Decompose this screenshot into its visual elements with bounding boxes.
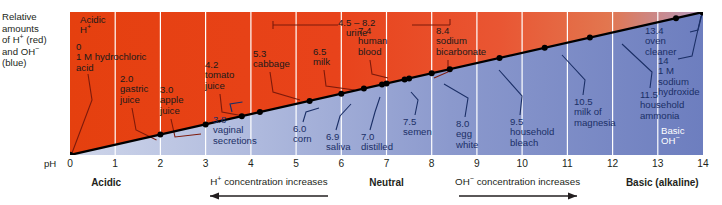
zone-label-neutral: Neutral <box>369 177 403 188</box>
label-saliva: 6.9saliva <box>326 132 351 153</box>
axis-tick-7: 7 <box>384 158 390 169</box>
axis-tick-0: 0 <box>67 158 73 169</box>
label-vaginal-secretions-line-3: secretions <box>213 136 257 146</box>
axis-tick-8: 8 <box>429 158 435 169</box>
y-axis-caption: Relative amounts of H+ (red) and OH− (bl… <box>2 11 66 69</box>
axis-tick-10: 10 <box>516 158 527 169</box>
y-axis-caption-line-2: amounts <box>2 23 66 35</box>
label-milk-line-2: milk <box>313 57 330 67</box>
axis-tick-9: 9 <box>474 158 480 169</box>
label-hydrochloric-acid: 01 M hydrochloricacid <box>76 42 146 73</box>
label-distilled-water: 7.0distilledwater <box>361 132 393 155</box>
axis-tick-5: 5 <box>293 158 299 169</box>
label-hydrochloric-acid-line-3: acid <box>76 63 146 73</box>
y-axis-caption-line-4: and OH− <box>2 46 66 58</box>
label-apple-juice-line-3: juice <box>160 106 183 116</box>
axis-tick-4: 4 <box>248 158 254 169</box>
label-sodium-bicarbonate: 8.4sodiumbicarbonate <box>436 26 486 57</box>
basic-region-label: Basic OH− <box>661 126 684 147</box>
label-oven-cleaner: 13.4ovencleaner <box>645 26 676 57</box>
flow-label-oh-concentration: OH− concentration increases <box>455 176 580 187</box>
label-milk-of-magnesia-line-3: magnesia <box>574 118 616 128</box>
zone-label-basic-alkaline: Basic (alkaline) <box>626 177 699 188</box>
ph-scale-diagram: Relative amounts of H+ (red) and OH− (bl… <box>0 0 722 205</box>
label-corn-line-2: corn <box>293 134 312 144</box>
axis-tick-13: 13 <box>652 158 663 169</box>
flow-label-h-concentration: H+ concentration increases <box>210 176 327 187</box>
label-milk: 6.5milk <box>313 47 330 68</box>
label-corn: 6.0corn <box>293 124 312 145</box>
label-saliva-line-2: saliva <box>326 142 351 152</box>
label-cabbage: 5.3cabbage <box>253 49 290 70</box>
flow-arrow-oh-concentration <box>459 190 577 202</box>
label-cabbage-line-2: cabbage <box>253 59 290 69</box>
ph-axis-title: pH <box>44 158 56 169</box>
label-semen-line-2: semen <box>403 127 432 137</box>
axis-tick-2: 2 <box>158 158 164 169</box>
label-vaginal-secretions: 3.8vaginalsecretions <box>213 115 257 155</box>
flow-arrow-h-concentration <box>210 190 328 202</box>
label-household-ammonia-line-3: ammonia <box>640 111 684 121</box>
ph-axis: pH 01234567891011121314 AcidicNeutralBas… <box>0 155 722 205</box>
y-axis-caption-line-5: (blue) <box>2 57 66 69</box>
label-gastric-juice: 2.0gastricjuice <box>120 74 148 105</box>
plot-area: Acidic H+ Basic OH− 4.5 – 8.2 urine 01 M… <box>70 12 703 155</box>
label-vaginal-secretions-line-4 <box>213 146 257 155</box>
axis-tick-14: 14 <box>697 158 708 169</box>
axis-tick-6: 6 <box>338 158 344 169</box>
label-human-blood-line-3: blood <box>358 47 387 57</box>
label-household-bleach: 9.5householdbleach <box>510 117 554 148</box>
axis-tick-12: 12 <box>607 158 618 169</box>
label-semen: 7.5semen <box>403 117 432 138</box>
label-apple-juice: 3.0applejuice <box>160 85 183 116</box>
axis-tick-3: 3 <box>203 158 209 169</box>
axis-tick-11: 11 <box>562 158 573 169</box>
axis-tick-1: 1 <box>112 158 118 169</box>
label-milk-of-magnesia: 10.5milk ofmagnesia <box>574 97 616 128</box>
zone-label-acidic: Acidic <box>91 177 121 188</box>
y-axis-caption-line-1: Relative <box>2 11 66 23</box>
label-sodium-hydroxide-line-4: hydroxide <box>658 87 700 97</box>
label-tomato-juice-line-3: juice <box>205 81 234 91</box>
label-egg-white-line-3: white <box>456 140 478 150</box>
label-sodium-hydroxide: 141 Msodiumhydroxide <box>658 56 700 98</box>
label-egg-white: 8.0eggwhite <box>456 119 478 150</box>
label-human-blood: 7.4humanblood <box>358 26 387 57</box>
label-sodium-bicarbonate-line-3: bicarbonate <box>436 47 486 57</box>
acidic-region-label: Acidic H+ <box>80 15 106 36</box>
y-axis-caption-line-3: of H+ (red) <box>2 34 66 46</box>
label-household-bleach-line-3: bleach <box>510 138 554 148</box>
label-tomato-juice: 4.2tomatojuice <box>205 60 234 91</box>
label-gastric-juice-line-3: juice <box>120 95 148 105</box>
